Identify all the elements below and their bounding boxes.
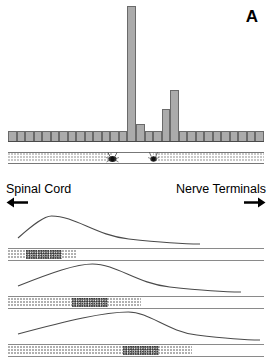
band-stipple bbox=[8, 346, 192, 355]
axon-band-3 bbox=[8, 344, 264, 357]
trace-3 bbox=[8, 308, 264, 342]
bar bbox=[170, 90, 179, 142]
panel-b: B bbox=[0, 212, 272, 358]
band-bottom-line bbox=[8, 356, 264, 357]
nerve-terminals-label: Nerve Terminals bbox=[176, 182, 266, 196]
figure-root: A Spinal Cord bbox=[0, 0, 272, 358]
stipple-cluster bbox=[26, 250, 62, 259]
band-top-line bbox=[8, 296, 264, 297]
axon-band bbox=[8, 150, 264, 165]
chart-baseline bbox=[8, 141, 264, 142]
stipple-cluster bbox=[72, 298, 108, 307]
band-top-line bbox=[8, 344, 264, 345]
arrow-right-icon bbox=[242, 197, 266, 208]
arrow-left-icon bbox=[6, 197, 30, 208]
bar bbox=[162, 109, 171, 142]
bar bbox=[127, 6, 136, 142]
mite-marker-1 bbox=[106, 152, 119, 163]
mite-marker-2 bbox=[147, 152, 160, 163]
bar bbox=[136, 124, 145, 142]
stipple-cluster bbox=[123, 346, 159, 355]
panel-a: A bbox=[0, 0, 272, 176]
trace-2 bbox=[8, 260, 264, 294]
bar-chart bbox=[8, 6, 264, 142]
direction-label-row: Spinal Cord Nerve Terminals bbox=[0, 182, 272, 210]
trace-1 bbox=[8, 212, 264, 246]
spinal-cord-label: Spinal Cord bbox=[6, 182, 71, 196]
band-bottom-line bbox=[8, 163, 264, 164]
band-top-line bbox=[8, 248, 264, 249]
